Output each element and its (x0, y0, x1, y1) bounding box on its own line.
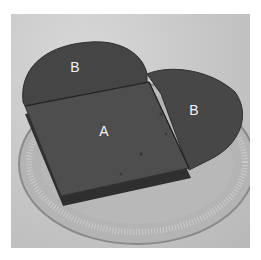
label-b-right: B (189, 103, 198, 117)
cake-photo: B A B (11, 14, 250, 248)
label-b-left: B (70, 60, 79, 74)
cake-illustration (11, 14, 250, 248)
label-a-center: A (99, 124, 108, 138)
